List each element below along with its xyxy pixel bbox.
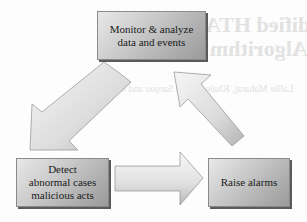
node-monitor-line-2: data and events: [110, 36, 194, 49]
node-alarm-line-1: Raise alarms: [221, 176, 278, 189]
node-raise-alarms: Raise alarms: [208, 158, 290, 207]
node-monitor-line-1: Monitor & analyze: [110, 23, 194, 36]
node-detect-line-3: malicious acts: [29, 189, 97, 202]
arrow-detect-to-alarm-icon: [115, 152, 203, 205]
arrow-monitor-to-detect-icon: [30, 62, 131, 150]
node-detect-line-2: abnormal cases: [29, 176, 97, 189]
arrow-alarm-to-monitor-icon: [174, 72, 244, 146]
diagram-canvas: Implementation of Modified HTA Algorithm…: [0, 0, 307, 222]
node-detect-abnormal: Detect abnormal cases malicious acts: [16, 158, 109, 207]
node-detect-line-1: Detect: [29, 163, 97, 176]
node-monitor-analyze: Monitor & analyze data and events: [97, 11, 206, 60]
